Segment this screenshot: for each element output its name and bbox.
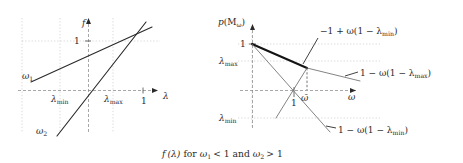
curve-one-minus-omega-lambda-max-tail xyxy=(307,68,360,81)
annotation-right: 1 − ω(1 − λmax) xyxy=(360,68,431,79)
right-y-axis-label: p(Mω) xyxy=(218,17,245,28)
figure-caption-group: f(λ)forω1< 1 andω2> 1 xyxy=(161,148,283,160)
figure-svg: f λ 1 1 λmin λmax ω1 ω2 xyxy=(0,0,463,163)
annotation-bottom-leader xyxy=(326,126,336,128)
left-panel: f λ 1 1 λmin λmax ω1 ω2 xyxy=(18,18,169,137)
annotation-bottom: 1 − ω(1 − λmin) xyxy=(338,125,408,136)
curve-omega-1 xyxy=(31,27,152,82)
left-x-tick-label-one: 1 xyxy=(141,96,147,106)
right-y-tick-label-lambda-max: λmax xyxy=(218,56,238,67)
curve-label-omega-1: ω1 xyxy=(22,71,33,82)
right-x-tick-label-one: 1 xyxy=(291,98,297,108)
right-x-tick-label-omega-bar: ω̄ xyxy=(301,93,309,103)
annotation-top-leader xyxy=(303,38,318,64)
annotation-right-leader xyxy=(345,72,358,76)
left-y-axis-arrowhead xyxy=(86,18,91,24)
right-x-axis-label: ω xyxy=(348,92,356,102)
figure-container: f λ 1 1 λmin λmax ω1 ω2 xyxy=(0,0,463,163)
left-x-axis-arrowhead xyxy=(152,88,158,93)
right-panel: p(Mω) ω 1 λmax λmin 1 ω̄ −1 + ω(1 − λmin… xyxy=(218,17,431,136)
right-y-tick-label-lambda-min: λmin xyxy=(218,113,237,124)
figure-caption: f(λ)forω1< 1 andω2> 1 xyxy=(161,148,283,160)
curve-one-minus-omega-lambda-max xyxy=(252,44,307,68)
left-x-tick-label-lambda-min: λmin xyxy=(50,94,69,105)
curve-one-minus-omega-lambda-min xyxy=(252,44,330,132)
right-y-tick-label-one: 1 xyxy=(240,39,246,49)
left-y-tick-label-one: 1 xyxy=(74,36,80,46)
curve-omega-2 xyxy=(57,22,146,136)
right-y-axis-arrowhead xyxy=(250,24,255,30)
curve-label-omega-2: ω2 xyxy=(36,126,47,137)
left-y-axis-label: f xyxy=(81,18,87,28)
annotation-top: −1 + ω(1 − λmin) xyxy=(320,26,397,37)
left-x-axis-label: λ xyxy=(162,91,169,101)
